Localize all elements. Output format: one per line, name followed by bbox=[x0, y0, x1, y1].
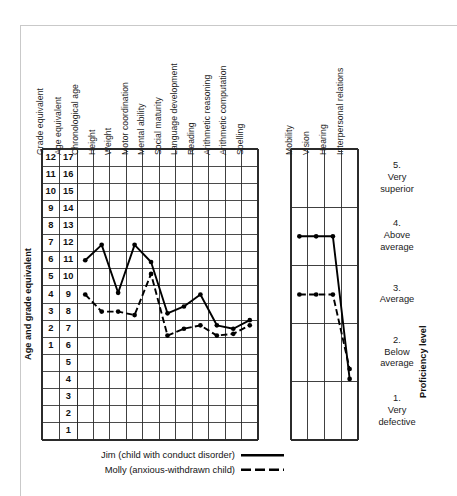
jim-point bbox=[247, 318, 252, 323]
column-header-grade-equivalent: Grade equivalent bbox=[35, 88, 45, 155]
age-equivalent-value: 13 bbox=[60, 221, 78, 230]
molly-point bbox=[331, 292, 336, 297]
column-header-mobility: Mobility bbox=[284, 125, 294, 155]
grade-equivalent-value: 6 bbox=[42, 255, 60, 264]
proficiency-level-number: 2. bbox=[364, 335, 430, 347]
age-equivalent-value: 5 bbox=[60, 358, 78, 367]
column-header-weight: Weight bbox=[103, 128, 113, 155]
jim-point bbox=[347, 377, 352, 382]
proficiency-level-text-line1: Average bbox=[364, 294, 430, 306]
molly-point bbox=[182, 326, 187, 331]
age-equivalent-value: 4 bbox=[60, 375, 78, 384]
jim-point bbox=[132, 243, 137, 248]
molly-point bbox=[83, 292, 88, 297]
column-header-vision: Vision bbox=[301, 131, 311, 155]
column-header-social-maturity: Social maturity bbox=[153, 97, 163, 155]
age-equivalent-value: 15 bbox=[60, 187, 78, 196]
molly-point bbox=[347, 367, 352, 372]
proficiency-level-text-line2: defective bbox=[364, 417, 430, 429]
legend-entry: Molly (anxious-withdrawn child) bbox=[30, 464, 235, 475]
grade-equivalent-value: 11 bbox=[42, 170, 60, 179]
grade-equivalent-value: 2 bbox=[42, 324, 60, 333]
grade-equivalent-value: 7 bbox=[42, 238, 60, 247]
jim-point bbox=[215, 323, 220, 328]
column-header-language-development: Language development bbox=[169, 63, 179, 155]
jim-point bbox=[99, 243, 104, 248]
grade-equivalent-value: 3 bbox=[42, 307, 60, 316]
age-equivalent-value: 10 bbox=[60, 272, 78, 281]
age-grade-series bbox=[83, 243, 252, 338]
column-header-age-equivalent: Age equivalent bbox=[53, 97, 63, 155]
molly-point bbox=[165, 333, 170, 338]
molly-point bbox=[215, 333, 220, 338]
jim-point bbox=[165, 311, 170, 316]
proficiency-level-label: 2.Belowaverage bbox=[364, 335, 430, 371]
jim-point bbox=[331, 234, 336, 239]
grade-equivalent-value: 1 bbox=[42, 341, 60, 350]
proficiency-level-label: 4.Aboveaverage bbox=[364, 218, 430, 254]
proficiency-level-number: 1. bbox=[364, 393, 430, 405]
jim-point bbox=[149, 260, 154, 265]
age-equivalent-value: 1 bbox=[60, 426, 78, 435]
proficiency-level-label: 5.Verysuperior bbox=[364, 160, 430, 196]
jim-point bbox=[182, 304, 187, 309]
proficiency-level-label: 3.Average bbox=[364, 283, 430, 307]
column-header-reading: Reading bbox=[186, 122, 196, 155]
jim-point bbox=[314, 234, 319, 239]
age-equivalent-value: 14 bbox=[60, 204, 78, 213]
jim-point bbox=[116, 290, 121, 295]
grade-equivalent-value: 4 bbox=[42, 290, 60, 299]
figure-canvas: 1217111610159148137126115104938271654321… bbox=[0, 0, 457, 496]
jim-point bbox=[231, 326, 236, 331]
age-equivalent-value: 2 bbox=[60, 409, 78, 418]
proficiency-level-number: 3. bbox=[364, 283, 430, 295]
legend-entry: Jim (child with conduct disorder) bbox=[30, 449, 235, 460]
proficiency-level-text-line2: average bbox=[364, 242, 430, 254]
age-equivalent-value: 16 bbox=[60, 170, 78, 179]
column-header-height: Height bbox=[87, 130, 97, 155]
molly-point bbox=[132, 313, 137, 318]
column-header-hearing: Hearing bbox=[318, 124, 328, 155]
molly-point bbox=[99, 309, 104, 314]
proficiency-level-label: 1.Verydefective bbox=[364, 393, 430, 429]
proficiency-level-number: 5. bbox=[364, 160, 430, 172]
jim-point bbox=[83, 258, 88, 263]
proficiency-level-text-line1: Below bbox=[364, 347, 430, 359]
molly-point bbox=[314, 292, 319, 297]
age-equivalent-value: 6 bbox=[60, 341, 78, 350]
column-header-mental-ability: Mental ability bbox=[136, 103, 146, 155]
column-header-chronological-age: Chronological age bbox=[70, 84, 80, 155]
proficiency-level-text-line2: average bbox=[364, 358, 430, 370]
molly-point bbox=[149, 272, 154, 277]
age-equivalent-value: 3 bbox=[60, 392, 78, 401]
column-header-arithmetic-reasoning: Arithmetic reasoning bbox=[202, 75, 212, 155]
molly-point bbox=[297, 292, 302, 297]
grade-equivalent-value: 5 bbox=[42, 272, 60, 281]
left-axis-title: Age and grade equivalent bbox=[23, 248, 33, 360]
grade-equivalent-value: 9 bbox=[42, 204, 60, 213]
age-equivalent-value: 11 bbox=[60, 255, 78, 264]
column-header-spelling: Spelling bbox=[235, 124, 245, 155]
column-header-arithmetic-computation: Arithmetic computation bbox=[218, 65, 228, 155]
column-header-interpersonal-relations: Interpersonal relations bbox=[335, 68, 345, 155]
column-header-motor-coordination: Motor coordination bbox=[120, 82, 130, 155]
age-equivalent-value: 8 bbox=[60, 307, 78, 316]
proficiency-level-text-line1: Very bbox=[364, 405, 430, 417]
grade-equivalent-value: 10 bbox=[42, 187, 60, 196]
grade-equivalent-value: 8 bbox=[42, 221, 60, 230]
age-equivalent-value: 9 bbox=[60, 290, 78, 299]
jim-point bbox=[198, 292, 203, 297]
proficiency-level-text-line1: Above bbox=[364, 230, 430, 242]
proficiency-level-text-line2: superior bbox=[364, 184, 430, 196]
age-equivalent-value: 12 bbox=[60, 238, 78, 247]
molly-point bbox=[198, 323, 203, 328]
age-equivalent-value: 7 bbox=[60, 324, 78, 333]
molly-point bbox=[247, 323, 252, 328]
molly-point bbox=[231, 332, 236, 337]
jim-point bbox=[297, 234, 302, 239]
proficiency-level-text-line1: Very bbox=[364, 172, 430, 184]
proficiency-level-number: 4. bbox=[364, 218, 430, 230]
molly-point bbox=[116, 309, 121, 314]
